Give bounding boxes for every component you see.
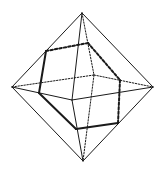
edge-K-B (83, 75, 94, 161)
edge-H6-H5 (39, 93, 76, 129)
hidden-edges (12, 13, 153, 161)
edge-T-R (82, 13, 153, 87)
edge-L-K (12, 75, 94, 87)
edge-L-F (12, 87, 72, 100)
edge-H2-H3 (88, 43, 120, 80)
edge-F-R (72, 87, 153, 100)
edge-H3-H4 (118, 80, 120, 123)
octahedron-diagram (0, 0, 166, 176)
edge-T-F (72, 13, 82, 100)
visible-edges (12, 13, 153, 161)
edge-H5-H4 (76, 123, 118, 129)
edge-K-R (94, 75, 153, 87)
